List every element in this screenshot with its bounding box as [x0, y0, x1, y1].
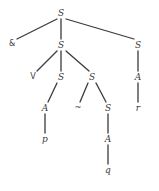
tree-node-n12: p: [42, 135, 48, 144]
tree-edge: [66, 19, 134, 39]
tree-edge: [96, 83, 106, 102]
tree-node-n14: q: [105, 166, 111, 175]
tree-node-n5: S: [58, 73, 64, 82]
tree-edges-layer: [0, 0, 159, 191]
tree-node-n4: V: [30, 73, 35, 81]
tree-edge: [48, 83, 57, 102]
tree-edge: [17, 19, 57, 39]
parse-tree-figure: S&SSVSSAA~SrpAq: [0, 0, 159, 191]
tree-node-n13: A: [105, 135, 112, 144]
tree-node-n0: S: [58, 9, 64, 18]
tree-edge: [80, 83, 88, 102]
tree-node-n10: S: [105, 104, 111, 113]
tree-node-n2: S: [58, 41, 64, 50]
tree-node-n9: ~: [75, 104, 82, 112]
tree-node-n6: S: [89, 73, 95, 82]
tree-edge: [37, 51, 57, 71]
tree-edge: [66, 51, 89, 71]
tree-node-n1: &: [9, 40, 15, 48]
tree-node-n8: A: [42, 104, 49, 113]
tree-node-n11: r: [136, 104, 140, 113]
tree-node-n7: A: [135, 73, 142, 82]
tree-node-n3: S: [135, 41, 141, 50]
